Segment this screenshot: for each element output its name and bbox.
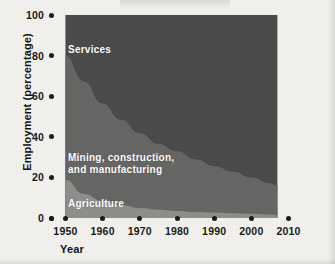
x-tick-dot-1970 <box>137 216 142 221</box>
scan-shade-right <box>328 0 335 264</box>
x-tick-dot-1990 <box>212 216 217 221</box>
x-tick-label-1950: 1950 <box>45 226 85 237</box>
x-tick-dot-1960 <box>100 216 105 221</box>
scan-smudge-top <box>120 0 230 9</box>
x-tick-dot-2000 <box>249 216 254 221</box>
series-label-mining: Mining, construction, and manufacturing <box>68 152 174 176</box>
y-axis-title: Employment (percentage) <box>21 27 33 177</box>
series-label-services: Services <box>68 44 111 56</box>
x-tick-label-1990: 1990 <box>194 226 234 237</box>
x-axis-title: Year <box>60 243 84 255</box>
y-tick-dot-60 <box>49 94 54 99</box>
employment-area-chart: Services Mining, construction, and manuf… <box>0 0 335 264</box>
axis-origin-dot <box>49 216 54 221</box>
x-tick-dot-1950 <box>63 216 68 221</box>
x-tick-dot-2010 <box>286 216 291 221</box>
series-label-agriculture: Agriculture <box>68 198 124 210</box>
x-tick-label-1980: 1980 <box>157 226 197 237</box>
x-tick-dot-1980 <box>175 216 180 221</box>
x-tick-label-2010: 2010 <box>269 226 309 237</box>
x-tick-label-1970: 1970 <box>120 226 160 237</box>
x-tick-label-2000: 2000 <box>231 226 271 237</box>
y-tick-dot-40 <box>49 134 54 139</box>
y-tick-dot-100 <box>49 13 54 18</box>
x-tick-label-1960: 1960 <box>83 226 123 237</box>
y-tick-label-100: 100 <box>18 10 44 21</box>
scan-shade-bottom <box>0 258 335 264</box>
y-tick-dot-20 <box>49 175 54 180</box>
y-tick-label-0: 0 <box>18 213 44 224</box>
y-tick-dot-80 <box>49 53 54 58</box>
